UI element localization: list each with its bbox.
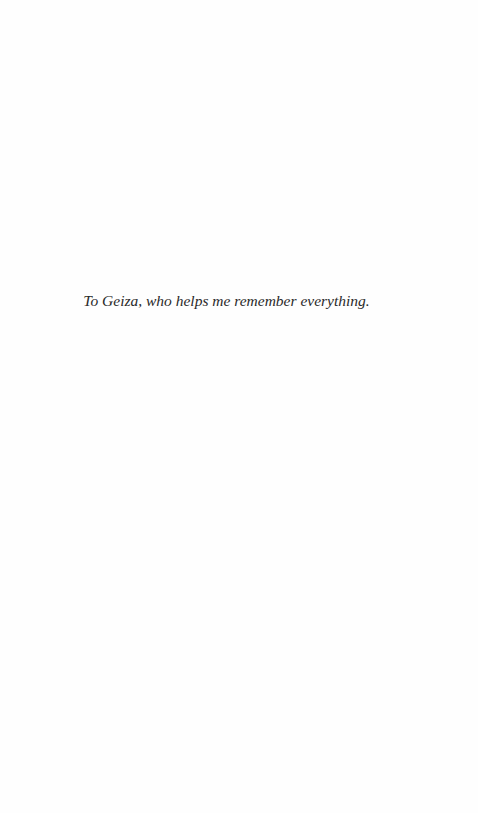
dedication-text: To Geiza, who helps me remember everythi… — [0, 292, 453, 310]
dedication-page: To Geiza, who helps me remember everythi… — [0, 0, 478, 813]
